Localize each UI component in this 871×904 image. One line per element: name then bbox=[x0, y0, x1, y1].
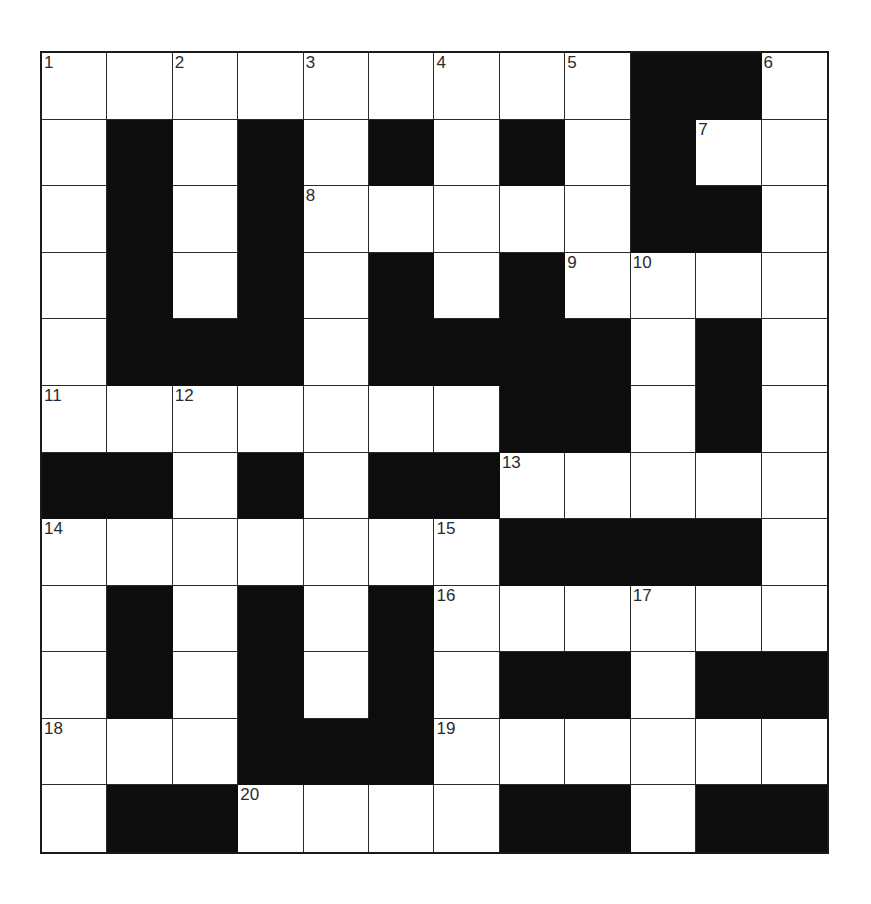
answer-cell[interactable] bbox=[173, 253, 238, 320]
answer-cell[interactable]: 16 bbox=[434, 586, 499, 653]
answer-cell[interactable] bbox=[631, 319, 696, 386]
answer-cell[interactable] bbox=[173, 586, 238, 653]
answer-cell[interactable] bbox=[696, 586, 761, 653]
answer-cell[interactable] bbox=[434, 386, 499, 453]
answer-cell[interactable]: 7 bbox=[696, 120, 761, 187]
answer-cell[interactable] bbox=[500, 186, 565, 253]
answer-cell[interactable] bbox=[107, 53, 172, 120]
answer-cell[interactable] bbox=[762, 253, 827, 320]
black-cell bbox=[631, 53, 696, 120]
answer-cell[interactable]: 17 bbox=[631, 586, 696, 653]
answer-cell[interactable]: 8 bbox=[304, 186, 369, 253]
answer-cell[interactable] bbox=[369, 386, 434, 453]
answer-cell[interactable] bbox=[565, 719, 630, 786]
answer-cell[interactable] bbox=[42, 186, 107, 253]
answer-cell[interactable] bbox=[762, 319, 827, 386]
answer-cell[interactable] bbox=[762, 719, 827, 786]
answer-cell[interactable] bbox=[42, 785, 107, 852]
black-cell bbox=[500, 519, 565, 586]
answer-cell[interactable]: 19 bbox=[434, 719, 499, 786]
answer-cell[interactable] bbox=[500, 586, 565, 653]
answer-cell[interactable] bbox=[107, 719, 172, 786]
answer-cell[interactable] bbox=[304, 319, 369, 386]
answer-cell[interactable]: 20 bbox=[238, 785, 303, 852]
answer-cell[interactable] bbox=[762, 120, 827, 187]
answer-cell[interactable] bbox=[304, 586, 369, 653]
clue-number: 13 bbox=[502, 454, 521, 471]
clue-number: 20 bbox=[240, 786, 259, 803]
answer-cell[interactable]: 3 bbox=[304, 53, 369, 120]
answer-cell[interactable]: 2 bbox=[173, 53, 238, 120]
answer-cell[interactable] bbox=[173, 453, 238, 520]
clue-number: 18 bbox=[44, 720, 63, 737]
answer-cell[interactable] bbox=[173, 519, 238, 586]
answer-cell[interactable] bbox=[762, 453, 827, 520]
answer-cell[interactable] bbox=[369, 53, 434, 120]
answer-cell[interactable] bbox=[369, 785, 434, 852]
answer-cell[interactable] bbox=[565, 186, 630, 253]
answer-cell[interactable] bbox=[434, 785, 499, 852]
answer-cell[interactable] bbox=[565, 120, 630, 187]
answer-cell[interactable] bbox=[631, 652, 696, 719]
answer-cell[interactable]: 10 bbox=[631, 253, 696, 320]
answer-cell[interactable] bbox=[369, 519, 434, 586]
answer-cell[interactable] bbox=[762, 186, 827, 253]
answer-cell[interactable] bbox=[42, 586, 107, 653]
answer-cell[interactable] bbox=[42, 120, 107, 187]
answer-cell[interactable] bbox=[42, 253, 107, 320]
answer-cell[interactable] bbox=[631, 386, 696, 453]
answer-cell[interactable] bbox=[304, 253, 369, 320]
answer-cell[interactable] bbox=[696, 453, 761, 520]
answer-cell[interactable] bbox=[304, 519, 369, 586]
answer-cell[interactable] bbox=[696, 719, 761, 786]
answer-cell[interactable] bbox=[173, 186, 238, 253]
answer-cell[interactable] bbox=[631, 785, 696, 852]
answer-cell[interactable]: 4 bbox=[434, 53, 499, 120]
answer-cell[interactable] bbox=[631, 453, 696, 520]
answer-cell[interactable] bbox=[565, 453, 630, 520]
answer-cell[interactable]: 13 bbox=[500, 453, 565, 520]
answer-cell[interactable]: 18 bbox=[42, 719, 107, 786]
black-cell bbox=[238, 586, 303, 653]
black-cell bbox=[696, 785, 761, 852]
answer-cell[interactable] bbox=[500, 53, 565, 120]
answer-cell[interactable]: 11 bbox=[42, 386, 107, 453]
answer-cell[interactable] bbox=[762, 519, 827, 586]
answer-cell[interactable] bbox=[434, 120, 499, 187]
answer-cell[interactable] bbox=[434, 652, 499, 719]
answer-cell[interactable] bbox=[304, 652, 369, 719]
answer-cell[interactable] bbox=[238, 386, 303, 453]
answer-cell[interactable] bbox=[173, 120, 238, 187]
answer-cell[interactable] bbox=[107, 386, 172, 453]
answer-cell[interactable] bbox=[369, 186, 434, 253]
answer-cell[interactable] bbox=[500, 719, 565, 786]
black-cell bbox=[42, 453, 107, 520]
answer-cell[interactable] bbox=[238, 53, 303, 120]
answer-cell[interactable] bbox=[107, 519, 172, 586]
answer-cell[interactable] bbox=[238, 519, 303, 586]
answer-cell[interactable] bbox=[304, 785, 369, 852]
answer-cell[interactable] bbox=[631, 719, 696, 786]
answer-cell[interactable]: 6 bbox=[762, 53, 827, 120]
answer-cell[interactable] bbox=[762, 386, 827, 453]
answer-cell[interactable] bbox=[434, 186, 499, 253]
answer-cell[interactable] bbox=[762, 586, 827, 653]
answer-cell[interactable] bbox=[304, 120, 369, 187]
answer-cell[interactable] bbox=[173, 719, 238, 786]
answer-cell[interactable] bbox=[696, 253, 761, 320]
black-cell bbox=[238, 120, 303, 187]
answer-cell[interactable]: 14 bbox=[42, 519, 107, 586]
answer-cell[interactable] bbox=[434, 253, 499, 320]
answer-cell[interactable] bbox=[304, 386, 369, 453]
answer-cell[interactable] bbox=[304, 453, 369, 520]
answer-cell[interactable]: 5 bbox=[565, 53, 630, 120]
answer-cell[interactable]: 12 bbox=[173, 386, 238, 453]
answer-cell[interactable] bbox=[173, 652, 238, 719]
answer-cell[interactable]: 1 bbox=[42, 53, 107, 120]
answer-cell[interactable] bbox=[42, 652, 107, 719]
answer-cell[interactable]: 9 bbox=[565, 253, 630, 320]
answer-cell[interactable] bbox=[565, 586, 630, 653]
black-cell bbox=[238, 453, 303, 520]
answer-cell[interactable]: 15 bbox=[434, 519, 499, 586]
answer-cell[interactable] bbox=[42, 319, 107, 386]
